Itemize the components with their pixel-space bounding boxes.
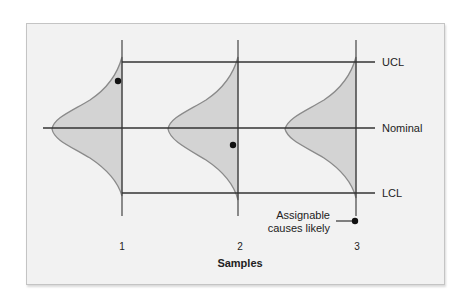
annotation-line-1: Assignable bbox=[276, 209, 330, 221]
control-chart-diagram: UCL Nominal LCL Assignable causes likely… bbox=[0, 0, 466, 306]
nominal-label: Nominal bbox=[382, 122, 422, 134]
annotation-line-2: causes likely bbox=[268, 222, 331, 234]
sample-label-2: 2 bbox=[237, 241, 243, 252]
distribution-curve-sample-1 bbox=[52, 57, 122, 196]
ucl-label: UCL bbox=[382, 56, 404, 68]
sample-point-2 bbox=[230, 142, 236, 148]
x-axis-title: Samples bbox=[217, 257, 262, 269]
sample-point-1 bbox=[115, 78, 121, 84]
sample-label-3: 3 bbox=[354, 241, 360, 252]
sample-label-1: 1 bbox=[119, 241, 125, 252]
lcl-label: LCL bbox=[382, 187, 402, 199]
sample-point-3 bbox=[352, 218, 358, 224]
